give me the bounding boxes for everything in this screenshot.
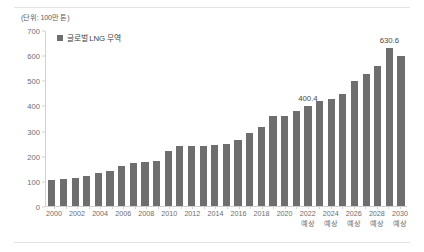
bar-series: 400.4630.6 <box>46 31 407 206</box>
y-axis-tick-label: 600 <box>27 52 40 61</box>
x-axis-tick: 2024예상 <box>323 209 339 228</box>
bar[interactable] <box>60 179 67 207</box>
bar[interactable] <box>141 162 148 206</box>
x-axis-tick: .. <box>270 209 277 228</box>
x-axis-tick-mark <box>227 206 228 209</box>
bar[interactable] <box>106 171 113 206</box>
bar[interactable] <box>281 116 288 206</box>
x-axis-ticks: 2000...2002...2004...2006...2008...2010.… <box>46 209 408 228</box>
bar[interactable] <box>95 173 102 206</box>
bar[interactable] <box>363 74 370 207</box>
bar[interactable] <box>223 144 230 207</box>
x-axis-tick-mark <box>331 206 332 209</box>
y-axis-tick-label: 0 <box>36 203 40 212</box>
bar[interactable] <box>293 111 300 206</box>
y-axis-tick-mark <box>42 56 45 57</box>
bar-slot <box>81 31 93 206</box>
x-axis-tick-mark <box>377 206 378 209</box>
x-axis-tick: .. <box>154 209 161 228</box>
x-axis-tick: 2018. <box>254 209 270 228</box>
bar[interactable] <box>316 101 323 206</box>
x-axis-tick-mark <box>296 206 297 209</box>
x-axis-tick: 2022예상 <box>300 209 316 228</box>
x-axis-tick-mark <box>112 206 113 209</box>
bar[interactable] <box>269 116 276 206</box>
bar-slot <box>186 31 198 206</box>
x-axis-tick: .. <box>339 209 346 228</box>
x-axis-tick-mark <box>273 206 274 209</box>
bar[interactable] <box>386 48 393 206</box>
bar-slot <box>244 31 256 206</box>
bar[interactable] <box>83 176 90 207</box>
x-axis-tick: .. <box>108 209 115 228</box>
x-axis-tick-mark <box>123 206 124 209</box>
x-axis-tick-year: 2026 <box>346 209 362 219</box>
bar-slot <box>279 31 291 206</box>
bar[interactable] <box>397 56 404 206</box>
y-axis-tick-mark <box>42 106 45 107</box>
y-axis-tick-label: 400 <box>27 102 40 111</box>
bar-slot <box>290 31 302 206</box>
bar[interactable] <box>130 163 137 206</box>
x-axis-tick-mark <box>89 206 90 209</box>
x-axis-tick-year: 2004 <box>92 209 108 219</box>
y-axis-tick-mark <box>42 181 45 182</box>
bar[interactable] <box>339 94 346 207</box>
bar[interactable] <box>188 146 195 206</box>
bar-slot <box>209 31 221 206</box>
bar[interactable] <box>258 127 265 206</box>
x-axis-tick-mark <box>66 206 67 209</box>
x-axis-tick-note: 예상 <box>392 219 408 228</box>
x-axis-tick-mark <box>169 206 170 209</box>
bar[interactable] <box>72 178 79 206</box>
x-axis-tick: .. <box>316 209 323 228</box>
bar[interactable] <box>328 99 335 207</box>
y-axis-tick-label: 700 <box>27 27 40 36</box>
x-axis-tick-mark <box>285 206 286 209</box>
chart-page: (단위: 100만 톤) 글로벌 LNG 무역 0100200300400500… <box>0 0 424 252</box>
x-axis-tick: 2016. <box>231 209 247 228</box>
x-axis-tick-year: 2014 <box>207 209 223 219</box>
x-axis-tick-note: 예상 <box>323 219 339 228</box>
x-axis-tick-mark <box>319 206 320 209</box>
bar-slot <box>337 31 349 206</box>
bar[interactable] <box>374 66 381 206</box>
bar-slot: 400.4 <box>302 31 314 206</box>
x-axis-tick: .. <box>385 209 392 228</box>
x-axis-tick-year: 2006 <box>115 209 131 219</box>
bar[interactable] <box>118 166 125 206</box>
x-axis-tick-mark <box>262 206 263 209</box>
bar[interactable] <box>234 140 241 206</box>
x-axis-tick-year: 2030 <box>392 209 408 219</box>
x-axis-tick-mark <box>365 206 366 209</box>
x-axis-tick-mark <box>388 206 389 209</box>
x-axis-tick: .. <box>62 209 69 228</box>
bar-slot <box>372 31 384 206</box>
bar[interactable] <box>176 146 183 206</box>
x-axis-tick-year: 2002 <box>69 209 85 219</box>
bar[interactable] <box>48 180 55 206</box>
x-axis-tick: .. <box>177 209 184 228</box>
y-axis-tick-mark <box>42 156 45 157</box>
x-axis-tick-year: 2028 <box>369 209 385 219</box>
x-axis-tick: 2010. <box>161 209 177 228</box>
x-axis-tick: 2006. <box>115 209 131 228</box>
x-axis-tick: 2030예상 <box>392 209 408 228</box>
bar[interactable] <box>165 151 172 206</box>
x-axis-tick: .. <box>200 209 207 228</box>
bar[interactable] <box>153 161 160 206</box>
x-axis-tick-mark <box>77 206 78 209</box>
bar-slot <box>360 31 372 206</box>
x-axis-tick-year: 2008 <box>138 209 154 219</box>
x-axis-tick-mark <box>354 206 355 209</box>
bar[interactable] <box>304 106 311 206</box>
bar-slot <box>232 31 244 206</box>
bar-slot <box>127 31 139 206</box>
x-axis-tick: .. <box>85 209 92 228</box>
y-axis-tick-mark <box>42 31 45 32</box>
bar[interactable] <box>211 145 218 206</box>
bar-slot <box>151 31 163 206</box>
bar[interactable] <box>200 146 207 206</box>
bar[interactable] <box>351 81 358 206</box>
bar[interactable] <box>246 133 253 206</box>
